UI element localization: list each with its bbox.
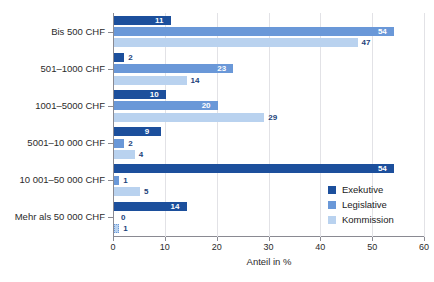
bar-value-label: 1 — [123, 223, 127, 234]
bar-row: 54 — [114, 27, 425, 36]
bar-row: 29 — [114, 113, 425, 122]
bar-value-label: 29 — [268, 112, 277, 123]
legend-label-exekutive: Exekutive — [342, 184, 383, 195]
bar-exekutive[interactable] — [114, 53, 124, 62]
legend-item-legislative[interactable]: Legislative — [328, 198, 394, 211]
bar-value-label: 4 — [139, 149, 143, 160]
x-axis-title: Anteil in % — [113, 256, 425, 267]
bar-kommission[interactable] — [114, 187, 140, 196]
bar-value-label: 14 — [171, 201, 180, 212]
bar-group: 115447 — [114, 13, 425, 50]
x-axis-tick — [165, 237, 166, 241]
bar-row: 47 — [114, 38, 425, 47]
bar-value-label: 5 — [144, 186, 148, 197]
legend-item-exekutive[interactable]: Exekutive — [328, 183, 394, 196]
bar-row: 23 — [114, 64, 425, 73]
bar-group: 924 — [114, 125, 425, 162]
y-axis-category-label: 10 001–50 000 CHF — [19, 174, 105, 185]
x-axis-tick-label: 10 — [160, 242, 170, 253]
y-axis-tick — [108, 180, 113, 181]
bar-row: 2 — [114, 139, 425, 148]
bar-value-label: 20 — [202, 100, 211, 111]
legend-item-kommission[interactable]: Kommission — [328, 213, 394, 226]
bar-value-label: 10 — [150, 89, 159, 100]
bar-value-label: 1 — [123, 175, 127, 186]
legend-swatch-icon-kommission — [328, 216, 336, 224]
bar-row: 4 — [114, 150, 425, 159]
bar-value-label: 14 — [191, 75, 200, 86]
bar-value-label: 2 — [128, 52, 132, 63]
bar-group: 22314 — [114, 50, 425, 87]
bar-legislative[interactable] — [114, 27, 394, 36]
y-axis-tick — [108, 32, 113, 33]
bar-row: 10 — [114, 90, 425, 99]
x-axis-tick — [217, 237, 218, 241]
legend-label-legislative: Legislative — [342, 199, 387, 210]
bar-value-label: 47 — [362, 37, 371, 48]
bar-value-label: 2 — [128, 138, 132, 149]
bar-row: 9 — [114, 127, 425, 136]
legend-swatch-icon-exekutive — [328, 186, 336, 194]
bar-value-label: 54 — [378, 163, 387, 174]
bar-row: 54 — [114, 164, 425, 173]
x-axis-tick-label: 0 — [110, 242, 115, 253]
bar-value-label: 9 — [145, 126, 149, 137]
bar-value-label: 0 — [121, 212, 125, 223]
x-axis-tick-label: 50 — [367, 242, 377, 253]
bar-legislative[interactable] — [114, 176, 119, 185]
x-axis-tick — [372, 237, 373, 241]
bar-kommission[interactable] — [114, 38, 358, 47]
y-axis-labels: Bis 500 CHF501–1000 CHF1001–5000 CHF5001… — [0, 13, 105, 237]
x-axis-tick — [269, 237, 270, 241]
bar-chart: Bis 500 CHF501–1000 CHF1001–5000 CHF5001… — [0, 0, 434, 282]
bar-row: 20 — [114, 101, 425, 110]
y-axis-tick — [108, 69, 113, 70]
bar-row: 11 — [114, 16, 425, 25]
bar-legislative[interactable] — [114, 139, 124, 148]
y-axis-category-label: Bis 500 CHF — [51, 26, 105, 37]
x-axis-tick — [320, 237, 321, 241]
bar-group: 102029 — [114, 87, 425, 124]
bar-value-label: 23 — [217, 63, 226, 74]
legend: Exekutive Legislative Kommission — [328, 183, 394, 228]
bar-legislative[interactable] — [114, 64, 233, 73]
bar-value-label: 54 — [378, 26, 387, 37]
bar-kommission[interactable] — [114, 113, 264, 122]
bar-exekutive[interactable] — [114, 127, 161, 136]
legend-swatch-icon-legislative — [328, 201, 336, 209]
y-axis-tick — [108, 143, 113, 144]
bar-row: 2 — [114, 53, 425, 62]
cut-off-title — [50, 0, 350, 4]
bar-row: 14 — [114, 76, 425, 85]
bar-kommission[interactable] — [114, 76, 187, 85]
x-axis-tick-label: 20 — [212, 242, 222, 253]
x-axis-tick-label: 30 — [263, 242, 273, 253]
bar-exekutive[interactable] — [114, 164, 394, 173]
x-axis-tick — [424, 237, 425, 241]
x-axis-tick-label: 40 — [315, 242, 325, 253]
y-axis-tick — [108, 106, 113, 107]
y-axis-category-label: Mehr als 50 000 CHF — [15, 211, 105, 222]
bar-value-label: 11 — [155, 15, 163, 26]
y-axis-category-label: 501–1000 CHF — [41, 63, 105, 74]
x-axis-tick — [113, 237, 114, 241]
y-axis-category-label: 1001–5000 CHF — [35, 100, 105, 111]
y-axis-category-label: 5001–10 000 CHF — [27, 137, 105, 148]
y-axis-tick — [108, 217, 113, 218]
legend-label-kommission: Kommission — [342, 214, 394, 225]
bar-kommission[interactable] — [114, 150, 135, 159]
bar-kommission[interactable] — [114, 224, 119, 233]
x-axis-tick-label: 60 — [419, 242, 429, 253]
